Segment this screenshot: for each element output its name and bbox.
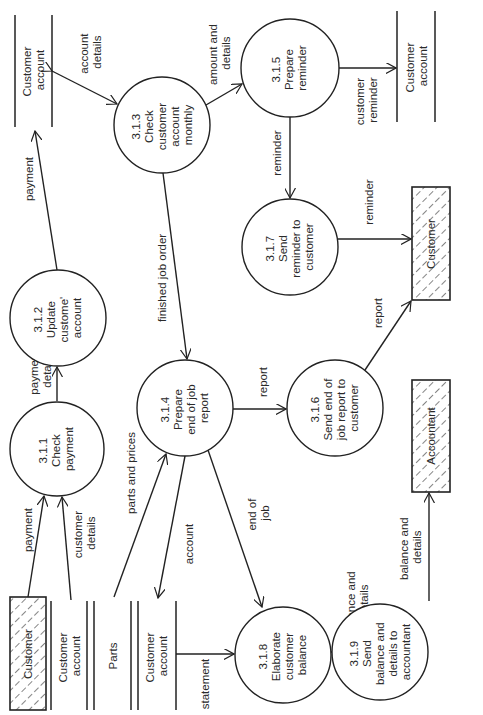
entity-accountant: Accountant xyxy=(412,380,450,492)
flow-label-balance-details-2: balance and details xyxy=(398,514,423,580)
svg-text:Customer account: Customer account xyxy=(57,629,82,682)
process-3-1-1: 3.1.1 Check payment xyxy=(10,402,104,496)
store-customer-account-bottom-1: Customer account xyxy=(51,601,87,710)
svg-text:Customer account: Customer account xyxy=(21,43,46,96)
flow-label-finished-job-order: finished job order xyxy=(156,234,168,322)
entity-customer-right: Customer xyxy=(412,187,450,300)
store-customer-account-top-left: Customer account xyxy=(15,15,52,127)
flow-label-report-1: report xyxy=(257,366,269,397)
flow-labels: payment customer details payment details… xyxy=(22,21,423,709)
flow-label-amount-details: amount and details xyxy=(207,21,232,85)
flows xyxy=(28,68,429,654)
flow-label-account: account xyxy=(183,523,195,564)
process-3-1-6: 3.1.6 Send end of job report to customer xyxy=(287,360,383,456)
svg-text:Customer: Customer xyxy=(22,629,34,679)
flow-label-payment-2: payment xyxy=(23,156,35,201)
svg-text:Customer account: Customer account xyxy=(144,629,169,682)
store-label: Customer xyxy=(21,47,33,97)
process-3-1-5: 3.1.5 Prepare reminder xyxy=(241,19,339,117)
process-3-1-9: 3.1.9 Send balance and details to accoun… xyxy=(332,604,428,700)
entity-customer-bottom: Customer xyxy=(10,597,46,710)
process-3-1-3: 3.1.3 Check customer account monthly xyxy=(114,77,210,173)
flow-label-payment: payment xyxy=(22,507,34,552)
process-3-1-7: 3.1.7 Send reminder to customer xyxy=(242,199,338,295)
svg-text:Customer account: Customer account xyxy=(404,39,429,92)
process-3-1-4: 3.1.4 Prepare end of job report xyxy=(137,360,233,456)
process-3-1-2: 3.1.2 Update custome' account xyxy=(10,270,106,366)
flow-label-customer-reminder: customer reminder xyxy=(354,75,379,126)
flow-label-end-of-job: end of job xyxy=(246,495,271,530)
store-customer-account-top-right: Customer account xyxy=(397,11,435,122)
flow-label-customer-details: customer details xyxy=(72,508,97,559)
process-3-1-8: 3.1.8 Elaborate customer balance xyxy=(235,607,331,703)
svg-text:Customer: Customer xyxy=(425,219,437,269)
svg-text:Accountant: Accountant xyxy=(425,406,437,464)
store-parts: Parts xyxy=(94,601,131,710)
flow-label-reminder-2: reminder xyxy=(363,179,375,225)
svg-text:Parts: Parts xyxy=(107,642,119,669)
data-flow-diagram: Customer account Customer account Custom… xyxy=(0,0,483,715)
flow-label-parts-prices: parts and prices xyxy=(125,432,137,514)
flow-label-report-2: report xyxy=(372,297,384,328)
flow-label-statement: statement xyxy=(199,658,211,709)
flow-label-account-details: account details xyxy=(78,30,103,73)
flow-label-reminder-1: reminder xyxy=(271,130,283,176)
store-customer-account-bottom-2: Customer account xyxy=(138,601,176,710)
